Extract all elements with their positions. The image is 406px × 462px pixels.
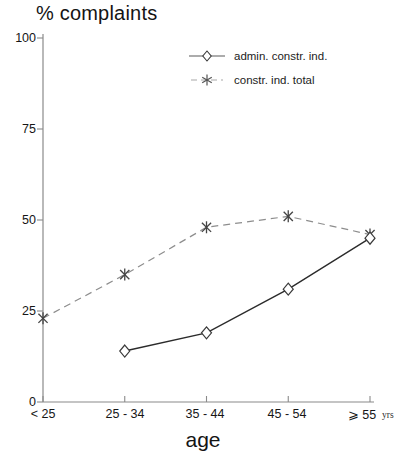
chart-container: % complaints 100 75 50 25 0 < 25 25 - 34… <box>0 0 406 462</box>
series-admin-constr-ind <box>120 232 375 357</box>
plot-area <box>0 0 406 462</box>
x-axis-ticks <box>43 396 370 402</box>
axis-lines <box>43 34 374 402</box>
y-axis-ticks <box>37 38 43 402</box>
